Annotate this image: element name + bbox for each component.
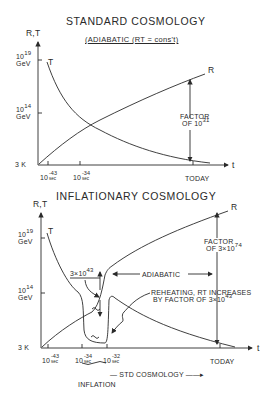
top-ytick-1e14: 1014 GeV bbox=[16, 106, 31, 120]
std-cosmology-label: — STD COSMOLOGY ——▸ bbox=[110, 371, 204, 378]
inflation-factor-label: 3×1043 bbox=[70, 270, 94, 277]
inflation-label: INFLATION bbox=[78, 381, 116, 388]
top-factor-label: FACTOR OF 1031 bbox=[180, 113, 210, 127]
bottom-ytick-1e19: 1019 GeV bbox=[18, 231, 33, 245]
top-ytick-3k: 3 K bbox=[15, 161, 26, 168]
reheating-pointer bbox=[112, 293, 150, 333]
bottom-ytick-1e14: 1014 GeV bbox=[18, 287, 33, 301]
top-title: STANDARD COSMOLOGY bbox=[66, 16, 206, 27]
bottom-xtick-1e-43: 10-43sec bbox=[42, 357, 50, 364]
break-mark-R bbox=[92, 308, 100, 311]
bottom-curve-R-label: R bbox=[231, 203, 237, 212]
top-xtick-today: TODAY bbox=[185, 175, 209, 182]
bottom-curve-T-label: T bbox=[48, 227, 53, 236]
top-subtitle: (ADIABATIC (RT = cons't) bbox=[85, 36, 178, 44]
top-xtick-1e-34: 10-34sec bbox=[73, 174, 81, 181]
bottom-xtick-1e-34: 10-34sec bbox=[75, 357, 83, 364]
adiabatic-label: ADIABATIC bbox=[142, 271, 180, 278]
top-x-axis-label: t bbox=[232, 161, 235, 170]
bottom-xtick-1e-32: 10-32sec bbox=[103, 357, 111, 364]
bottom-x-axis-label: t bbox=[257, 344, 260, 353]
bottom-ytick-3k: 3 K bbox=[18, 344, 29, 351]
bottom-y-axis-label: R,T bbox=[33, 200, 47, 209]
top-y-axis-label: R,T bbox=[26, 29, 40, 38]
top-curve-R-label: R bbox=[208, 66, 214, 75]
top-panel-axes bbox=[38, 42, 228, 165]
top-ytick-1e19: 1019 GeV bbox=[16, 53, 31, 67]
break-mark-T bbox=[91, 336, 99, 339]
bottom-curve-R bbox=[42, 211, 228, 347]
top-xtick-1e-43: 10-43sec bbox=[40, 174, 48, 181]
inflation-factor-pointer bbox=[85, 280, 99, 297]
bottom-factor-label: FACTOR OF 3×1074 bbox=[204, 238, 242, 252]
bottom-xtick-today: TODAY bbox=[210, 358, 234, 365]
bottom-title: INFLATIONARY COSMOLOGY bbox=[56, 191, 216, 202]
top-curve-T-label: T bbox=[48, 58, 53, 67]
reheating-label: REHEATING, RT INCREASES BY FACTOR OF 3×1… bbox=[151, 289, 251, 303]
bottom-panel-axes bbox=[41, 213, 252, 348]
